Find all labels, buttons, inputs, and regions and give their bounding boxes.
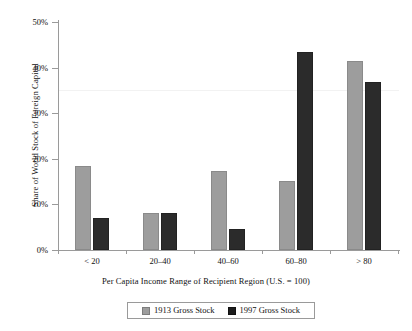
x-axis-tick xyxy=(58,250,59,254)
bar-1997-3 xyxy=(297,52,313,250)
bar-1913-2 xyxy=(211,171,227,250)
y-axis-tick-label: 30% xyxy=(8,109,48,118)
y-axis-tick-label: 40% xyxy=(8,64,48,73)
x-axis-tick xyxy=(126,250,127,254)
x-axis-tick-label: > 80 xyxy=(324,256,404,266)
legend-label: 1997 Gross Stock xyxy=(240,306,300,315)
bar-1997-2 xyxy=(229,229,245,250)
black-swatch-icon xyxy=(228,307,236,315)
bar-1913-3 xyxy=(279,181,295,250)
chart-legend: 1913 Gross Stock1997 Gross Stock xyxy=(127,302,315,319)
x-axis-tick xyxy=(262,250,263,254)
y-axis-tick-label: 10% xyxy=(8,200,48,209)
bar-chart: Share of World Stock of Foreign Capital … xyxy=(0,0,412,331)
bar-1913-0 xyxy=(75,166,91,250)
x-axis-title: Per Capita Income Range of Recipient Reg… xyxy=(0,276,412,286)
legend-entry-1913: 1913 Gross Stock xyxy=(142,306,214,315)
bar-1913-1 xyxy=(143,213,159,250)
x-axis-tick xyxy=(330,250,331,254)
x-axis-tick xyxy=(398,250,399,254)
legend-entry-1997: 1997 Gross Stock xyxy=(228,306,300,315)
legend-label: 1913 Gross Stock xyxy=(154,306,214,315)
bar-1997-4 xyxy=(365,82,381,250)
bar-1913-4 xyxy=(347,61,363,250)
gray-swatch-icon xyxy=(142,307,150,315)
y-axis-tick-label: 0% xyxy=(8,246,48,255)
y-axis-tick-label: 50% xyxy=(8,18,48,27)
bar-1997-0 xyxy=(93,218,109,250)
x-axis-line xyxy=(58,250,400,251)
y-axis-tick-label: 20% xyxy=(8,155,48,164)
bar-1997-1 xyxy=(161,213,177,250)
y-axis-title: Share of World Stock of Foreign Capital xyxy=(30,25,40,245)
x-axis-tick xyxy=(194,250,195,254)
plot-area xyxy=(58,22,398,250)
